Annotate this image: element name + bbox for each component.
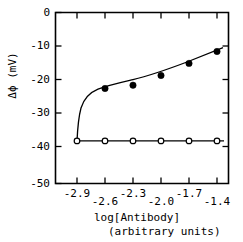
plot-frame bbox=[56, 13, 229, 184]
y-tick-label-minus30: -30 bbox=[16, 107, 50, 118]
axis-frame bbox=[56, 13, 229, 184]
x-tick-label-minus1p7: -1.7 bbox=[175, 188, 203, 199]
x-tick-label-minus2p3: -2.3 bbox=[119, 188, 147, 199]
chart-figure: 0 -10 -20 -30 -40 -50 -2.9 -2.6 -2.3 -2.… bbox=[0, 0, 243, 242]
data-point-open-2 bbox=[102, 138, 108, 144]
data-point-filled-5 bbox=[214, 48, 220, 54]
rising-fit-curve bbox=[77, 48, 223, 142]
x-tick-label-minus2p9: -2.9 bbox=[63, 188, 91, 199]
y-tick-label-minus40: -40 bbox=[16, 141, 50, 152]
data-point-open-4 bbox=[158, 138, 164, 144]
x-axis-ticks-top bbox=[77, 13, 217, 19]
data-point-filled-2 bbox=[130, 82, 136, 88]
y-tick-label-minus50: -50 bbox=[16, 178, 50, 189]
data-point-open-5 bbox=[186, 138, 192, 144]
x-tick-label-minus1p4: -1.4 bbox=[203, 196, 231, 207]
data-point-open-3 bbox=[130, 138, 136, 144]
x-axis-label-units: (arbitrary units) bbox=[108, 226, 221, 237]
data-point-filled-1 bbox=[102, 85, 108, 91]
y-tick-label-minus20: -20 bbox=[16, 74, 50, 85]
y-axis-ticks bbox=[56, 13, 62, 184]
data-point-open-6 bbox=[214, 138, 220, 144]
filled-circle-series bbox=[102, 48, 220, 91]
y-axis-label: Δϕ (mV) bbox=[7, 46, 18, 106]
x-tick-label-minus2p0: -2.0 bbox=[147, 196, 175, 207]
y-tick-label-minus10: -10 bbox=[16, 40, 50, 51]
x-tick-label-minus2p6: -2.6 bbox=[91, 196, 119, 207]
y-axis-ticks-right bbox=[223, 46, 229, 147]
x-axis-label: log[Antibody] bbox=[94, 212, 180, 223]
x-axis-ticks bbox=[77, 178, 217, 184]
data-point-filled-4 bbox=[186, 60, 192, 66]
data-point-open-1 bbox=[74, 138, 80, 144]
data-point-filled-3 bbox=[158, 72, 164, 78]
y-tick-label-0: 0 bbox=[16, 7, 50, 18]
